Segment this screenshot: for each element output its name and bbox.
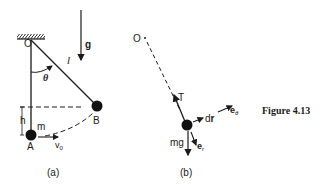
- mass-label: m: [37, 121, 45, 132]
- tension-label: T: [178, 92, 184, 103]
- gravity-label: g: [85, 39, 91, 50]
- point-a-label: A: [27, 141, 34, 152]
- pivot-label-a: O: [24, 38, 32, 49]
- height-label: h: [20, 115, 26, 126]
- pivot-label-b: O: [133, 33, 141, 44]
- dr-label: dr: [205, 113, 215, 124]
- bob-a: [26, 130, 37, 141]
- e-r-label: er: [197, 141, 204, 152]
- theta-label: θ: [43, 72, 49, 83]
- theta-arc-arrow: [31, 66, 52, 72]
- figure-caption: Figure 4.13: [262, 105, 310, 116]
- point-b-label: B: [93, 115, 100, 126]
- pivot-dot-b: [144, 37, 146, 39]
- e-theta-label: eθ: [230, 105, 239, 116]
- weight-label: mg: [170, 137, 184, 148]
- pendulum-figure: O l θ g h m A B v0 (a) O T dr eθ mg er (…: [0, 0, 328, 188]
- figure-svg: O l θ g h m A B v0 (a) O T dr eθ mg er (…: [0, 0, 328, 188]
- panel-b: O T dr eθ mg er (b): [133, 33, 239, 178]
- panel-b-label: (b): [180, 167, 192, 178]
- dashed-string-b: [147, 42, 180, 110]
- panel-a: O l θ g h m A B v0 (a): [17, 10, 103, 178]
- velocity-label: v0: [55, 140, 64, 151]
- swing-arc: [45, 113, 93, 136]
- panel-a-label: (a): [47, 167, 59, 178]
- bob-b-panel: [182, 120, 193, 131]
- dr-arrow: [193, 118, 203, 122]
- length-label: l: [67, 54, 70, 66]
- bob-b: [92, 101, 103, 112]
- e-r-arrow: [191, 132, 196, 145]
